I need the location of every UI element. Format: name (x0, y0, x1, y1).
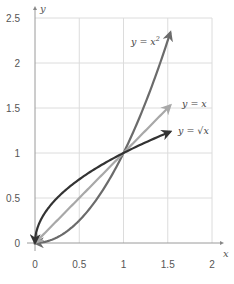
x-tick-label: 2 (209, 259, 215, 270)
x-tick-label: 1.5 (161, 259, 175, 270)
tick-labels: 00.511.5200.511.522.5xy (6, 3, 229, 270)
function-comparison-chart: 00.511.5200.511.522.5xy y = x2y = xy = √… (0, 0, 234, 284)
x-axis-label: x (223, 248, 229, 259)
y-tick-label: 2.5 (6, 13, 20, 24)
curve-identity (35, 105, 170, 243)
curve-sqrt (35, 132, 170, 243)
curve-x-squared (35, 32, 170, 243)
y-tick-label: 2 (14, 58, 20, 69)
x-tick-label: 0 (32, 259, 38, 270)
y-axis-label: y (39, 3, 46, 14)
x-tick-label: 1 (121, 259, 127, 270)
label-x-squared: y = x2 (130, 35, 160, 47)
curves (35, 32, 170, 243)
y-tick-label: 1 (14, 148, 20, 159)
y-tick-label: 1.5 (6, 103, 20, 114)
y-tick-label: 0 (14, 238, 20, 249)
label-sqrt: y = √x (177, 125, 209, 136)
curve-labels: y = x2y = xy = √x (130, 35, 209, 136)
label-identity: y = x (181, 98, 207, 109)
y-tick-label: 0.5 (6, 193, 20, 204)
x-tick-label: 0.5 (72, 259, 86, 270)
